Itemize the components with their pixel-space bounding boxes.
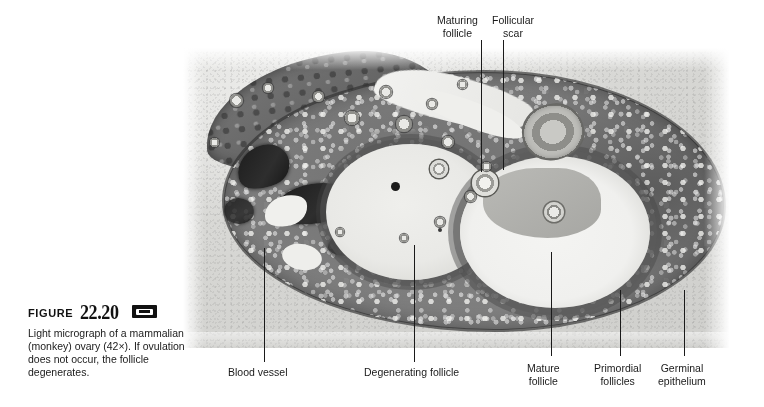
cortical-follicle <box>400 234 408 242</box>
degenerating-follicle-nucleus <box>391 182 400 191</box>
figure-caption-block: Figure 22.20 Light micrograph of a mamma… <box>28 298 208 379</box>
figure-caption-header: Figure 22.20 <box>28 298 208 323</box>
leader-line-follicular-scar <box>503 40 504 170</box>
cortical-follicle <box>482 162 491 171</box>
cortical-follicle <box>458 80 467 89</box>
videotape-icon <box>132 305 157 318</box>
cortical-follicle <box>210 138 219 147</box>
figure-number: 22.20 <box>80 300 118 325</box>
callout-label-degenerating-follicle: Degenerating follicle <box>364 366 459 379</box>
callout-label-germinal-epithelium: Germinal epithelium <box>658 362 706 387</box>
cortical-follicle <box>313 91 324 102</box>
plate-bottom-fade <box>178 332 734 348</box>
callout-label-blood-vessel: Blood vessel <box>228 366 288 379</box>
callout-label-mature-follicle: Mature follicle <box>527 362 560 387</box>
cortical-follicle <box>263 83 273 93</box>
cortical-follicle <box>435 217 445 227</box>
callout-label-primordial-follicles: Primordial follicles <box>594 362 641 387</box>
oocyte <box>544 202 564 222</box>
plate-top-fade <box>178 48 734 70</box>
cortical-follicle <box>345 111 359 125</box>
leader-line-degenerating-follicle <box>414 245 415 362</box>
leader-line-blood-vessel <box>264 248 265 362</box>
leader-line-maturing-follicle <box>481 40 482 172</box>
cumulus-oophorus <box>483 168 601 238</box>
leader-line-germinal-epithelium <box>684 290 685 356</box>
cortical-follicle <box>230 94 243 107</box>
cortical-follicle <box>427 99 437 109</box>
cortical-follicle <box>396 116 412 132</box>
maturing-follicle-secondary <box>430 160 448 178</box>
plate-right-fade <box>704 48 734 348</box>
leader-line-primordial-follicles <box>620 290 621 356</box>
callout-label-maturing-follicle: Maturing follicle <box>437 14 478 39</box>
figure-caption-text: Light micrograph of a mammalian (monkey)… <box>28 327 208 379</box>
cortical-follicle <box>380 86 392 98</box>
maturing-follicle-structure <box>472 170 498 196</box>
micrograph-plate <box>178 48 734 348</box>
callout-label-follicular-scar: Follicular scar <box>492 14 534 39</box>
leader-line-mature-follicle <box>551 252 552 356</box>
figure-label-word: Figure <box>28 307 73 319</box>
cortical-follicle <box>465 191 476 202</box>
figure-page: Maturing follicleFollicular scarBlood ve… <box>0 0 764 407</box>
cortical-follicle <box>442 136 454 148</box>
cortical-follicle <box>336 228 344 236</box>
degenerating-follicle-speck <box>438 228 442 232</box>
ovary-tissue-section <box>178 48 734 348</box>
